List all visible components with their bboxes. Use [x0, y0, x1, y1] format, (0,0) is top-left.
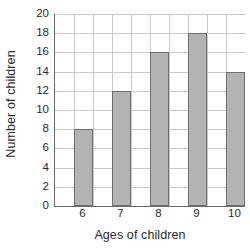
y-tick-label: 12 — [36, 85, 49, 97]
y-axis-title: Number of children — [0, 0, 22, 208]
bar — [150, 52, 169, 206]
y-tick-label: 18 — [36, 27, 49, 39]
bar — [112, 91, 131, 206]
bar — [226, 72, 245, 206]
y-tick-label: 20 — [36, 8, 49, 20]
x-tick-label: 9 — [193, 208, 199, 220]
bar — [74, 129, 93, 206]
y-tick-label: 4 — [43, 162, 49, 174]
bar-chart: Number of children 20181614121086420 678… — [0, 0, 250, 250]
x-axis-ticks: 678910 — [54, 208, 244, 226]
y-axis-ticks: 20181614121086420 — [22, 14, 52, 206]
x-tick-label: 10 — [228, 208, 241, 220]
y-tick-label: 14 — [36, 66, 49, 78]
y-tick-label: 10 — [36, 104, 49, 116]
y-tick-label: 16 — [36, 47, 49, 59]
bar — [188, 33, 207, 206]
x-tick-label: 6 — [79, 208, 85, 220]
y-tick-label: 2 — [43, 181, 49, 193]
y-tick-label: 8 — [43, 123, 49, 135]
x-tick-label: 7 — [117, 208, 123, 220]
bars-layer — [55, 14, 245, 206]
y-tick-label: 0 — [43, 200, 49, 212]
x-tick-label: 8 — [155, 208, 161, 220]
plot-area — [54, 14, 245, 207]
x-axis-title: Ages of children — [40, 228, 240, 242]
y-tick-label: 6 — [43, 143, 49, 155]
